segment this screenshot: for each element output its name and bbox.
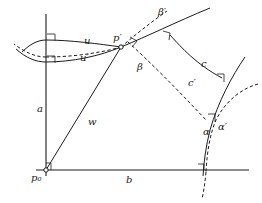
- label-u-prime: u′: [80, 53, 89, 63]
- label-p-zero: p₀: [31, 173, 41, 183]
- curve-u-prime-left-extension: [14, 44, 46, 57]
- label-b: b: [126, 175, 132, 185]
- label-c: c: [201, 59, 207, 69]
- right-angle-c-right-curve: [217, 74, 224, 82]
- label-u: u: [84, 36, 90, 46]
- right-angle-beta-prime-cross: [163, 31, 170, 40]
- label-beta-prime: β′: [158, 7, 166, 17]
- label-a: a: [37, 104, 43, 114]
- curve-c: [170, 35, 222, 78]
- label-c-prime: c′: [188, 78, 196, 88]
- vertex-p-zero: [44, 168, 48, 172]
- curve-beta-solid: [46, 8, 210, 62]
- label-beta: β: [137, 62, 143, 72]
- curve-alpha-prime-lower-dashed: [202, 172, 206, 199]
- vertex-p-prime: [119, 45, 123, 49]
- label-p-prime: p′: [113, 33, 122, 43]
- label-alpha: α: [203, 127, 210, 137]
- segment-w: [46, 47, 121, 170]
- geometry-figure: p₀ p′ a b w u u′ β β′ c c′ α α′: [0, 0, 262, 203]
- label-alpha-prime: α′: [218, 122, 227, 132]
- curve-u-left-extension: [22, 40, 46, 52]
- curve-alpha-prime-dashed: [206, 84, 258, 172]
- label-w: w: [88, 117, 97, 127]
- curve-beta-left-extension: [16, 49, 46, 62]
